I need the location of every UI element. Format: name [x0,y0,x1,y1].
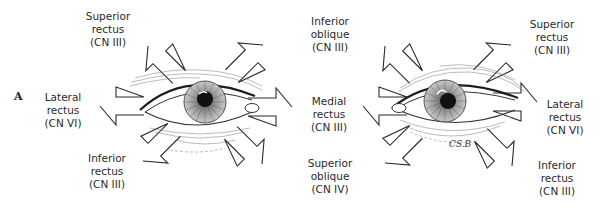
arrow-down-left-icon [130,116,188,174]
arrow-down-left-icon [372,118,430,176]
left-eye [100,32,292,178]
arrow-up-right-icon [466,32,524,90]
arrow-down-right-icon [217,119,275,177]
right-eye [363,32,537,180]
arrow-left-icon [100,87,144,125]
arrow-up-left-icon [372,33,430,91]
arrow-up-right-icon [218,32,276,90]
eye-illustrations [0,0,610,210]
right-pupil [440,93,456,109]
artist-signature: CS.B [449,139,471,149]
arrow-down-right-icon [467,121,525,179]
arrow-up-left-icon [135,33,193,91]
extraocular-muscles-diagram: A Superior rectus (CN III) Lateral rectu… [0,0,610,210]
